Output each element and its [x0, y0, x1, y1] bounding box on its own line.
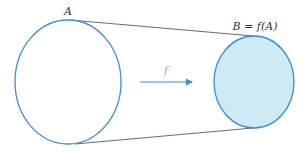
image-set-b — [214, 36, 294, 128]
domain-set-a — [15, 20, 121, 144]
image-set-label: B = f(A) — [232, 20, 278, 33]
function-mapping-diagram: A B = f(A) f — [0, 0, 307, 153]
domain-set-label: A — [63, 5, 72, 18]
mapping-label: f — [163, 64, 170, 77]
